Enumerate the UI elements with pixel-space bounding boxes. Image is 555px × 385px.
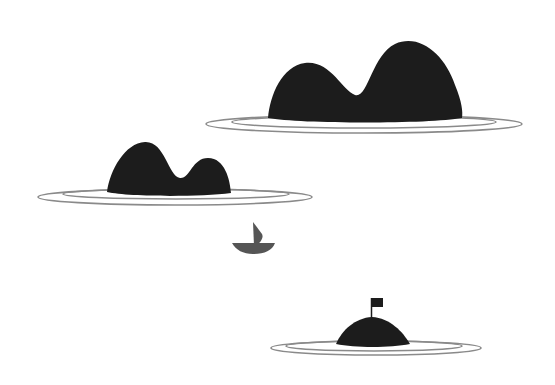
hull (232, 243, 275, 254)
large-island (206, 41, 522, 133)
sail (253, 222, 263, 246)
island-scene (0, 0, 555, 385)
medium-island (38, 142, 312, 205)
sailboat (232, 222, 275, 254)
flag-icon (372, 298, 383, 307)
large-island-body (268, 41, 462, 122)
small-island-with-flag (271, 298, 481, 355)
small-island-body (336, 317, 410, 347)
medium-island-body (107, 142, 231, 196)
